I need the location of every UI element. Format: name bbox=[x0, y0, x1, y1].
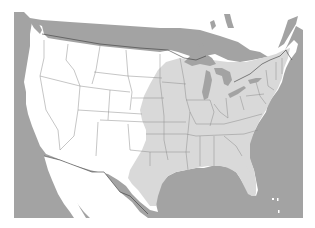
map-container bbox=[0, 0, 315, 228]
us-map bbox=[0, 0, 315, 228]
